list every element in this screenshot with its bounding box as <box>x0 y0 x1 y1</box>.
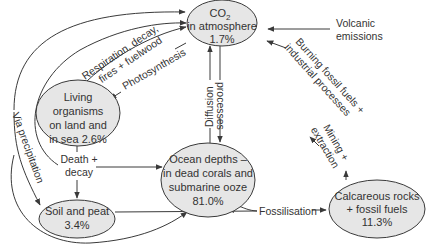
svg-text:Burning fossil fuels +: Burning fossil fuels + <box>294 35 368 115</box>
carbon-cycle-diagram: CO2 in atmosphere 1.7% Living organisms … <box>0 0 443 250</box>
svg-text:Death +: Death + <box>60 153 97 165</box>
svg-text:Volcanic: Volcanic <box>336 17 375 29</box>
label-mining: Mining + extraction <box>309 119 353 171</box>
label-diffusion: Diffusion <box>203 86 215 127</box>
node-ocean-depths: Ocean depths – in dead corals and submar… <box>161 143 255 217</box>
label-death-decay: Death + decay <box>60 153 97 178</box>
svg-text:Calcareous rocks: Calcareous rocks <box>335 190 420 202</box>
svg-text:in dead corals and: in dead corals and <box>163 167 253 179</box>
svg-text:decay: decay <box>65 166 94 178</box>
svg-text:81.0%: 81.0% <box>192 195 223 207</box>
svg-text:organisms: organisms <box>53 105 104 117</box>
svg-text:submarine ooze: submarine ooze <box>169 181 247 193</box>
label-fossilisation: Fossilisation <box>259 205 317 217</box>
svg-text:Diffusion: Diffusion <box>203 86 215 127</box>
svg-text:Ocean depths –: Ocean depths – <box>169 153 248 165</box>
svg-text:3.4%: 3.4% <box>64 219 89 231</box>
svg-text:Fossilisation: Fossilisation <box>259 205 317 217</box>
svg-text:in atmosphere: in atmosphere <box>187 20 257 32</box>
node-calcareous-rocks: Calcareous rocks + fossil fuels 11.3% <box>329 180 425 238</box>
svg-text:Living: Living <box>64 91 93 103</box>
svg-text:11.3%: 11.3% <box>362 216 393 228</box>
svg-text:1.7%: 1.7% <box>209 33 234 45</box>
node-living-organisms: Living organisms on land and in sea 2.6% <box>36 80 120 146</box>
label-burning: Burning fossil fuels + industrial proces… <box>283 33 368 124</box>
svg-text:processes: processes <box>215 82 227 130</box>
label-volcanic: Volcanic emissions <box>336 17 383 42</box>
svg-text:emissions: emissions <box>336 30 383 42</box>
node-co2: CO2 in atmosphere 1.7% <box>187 0 257 46</box>
node-soil-peat: Soil and peat 3.4% <box>39 200 115 238</box>
svg-text:in sea 2.6%: in sea 2.6% <box>49 133 107 145</box>
svg-text:+ fossil fuels: + fossil fuels <box>347 203 408 215</box>
label-processes: processes <box>215 82 227 130</box>
burning-arrow-tail <box>267 41 286 48</box>
svg-text:Soil and peat: Soil and peat <box>45 205 109 217</box>
svg-text:on land and: on land and <box>49 119 107 131</box>
